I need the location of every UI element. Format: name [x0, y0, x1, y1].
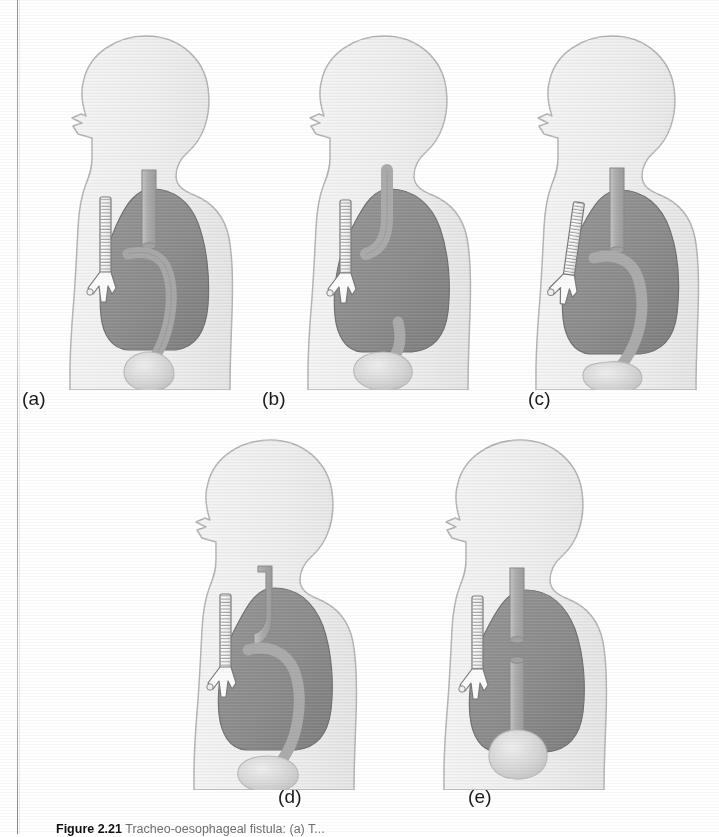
panel-c [490, 22, 705, 390]
panel-d [148, 428, 363, 790]
panel-e-stomach [489, 730, 547, 779]
panel-label-a: (a) [22, 388, 46, 410]
panel-c-upper-oesophagus [610, 168, 624, 253]
panel-d-stomach [238, 756, 298, 790]
panel-label-c: (c) [528, 388, 551, 410]
panel-label-b: (b) [262, 388, 286, 410]
panel-c-stomach [583, 362, 642, 390]
panel-label-e: (e) [468, 786, 492, 808]
figure-caption-text: Tracheo-oesophageal fistula: (a) T... [125, 822, 324, 836]
panel-a [24, 22, 239, 390]
panel-a-stomach [124, 352, 174, 390]
panel-e-upper-oesophagus-pouch [510, 568, 524, 643]
scan-edge-artifact-secondary [19, 0, 20, 834]
panel-e-lower-oesophagus [510, 657, 524, 738]
panel-label-d: (d) [278, 786, 302, 808]
figure-number: Figure 2.21 [56, 822, 122, 836]
panel-b-stomach [354, 352, 412, 390]
figure-caption: Figure 2.21 Tracheo-oesophageal fistula:… [56, 822, 716, 837]
panel-b [262, 22, 477, 390]
panel-e [398, 428, 613, 790]
panel-a-upper-oesophagus [142, 170, 156, 249]
